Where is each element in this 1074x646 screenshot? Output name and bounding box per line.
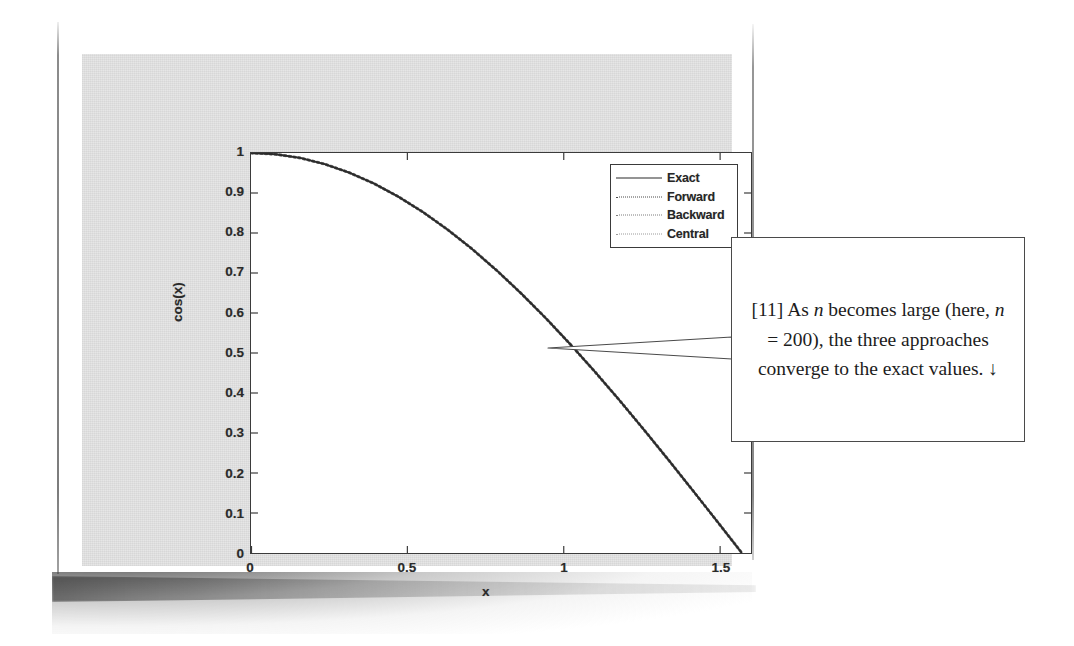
callout-italic-n-1: n [814,299,824,320]
x-axis-label: x [482,584,490,599]
y-tick-label: 0 [200,546,244,561]
matlab-figure: 1 0.9 0.8 0.7 0.6 0.5 0.4 0.3 0.2 0.1 0 … [82,54,732,566]
y-tick-label: 0.9 [200,184,244,199]
callout-text: [11] As n becomes large (here, n = 200),… [732,295,1024,384]
callout-leader-line [540,325,740,380]
y-tick-label: 0.7 [200,264,244,279]
callout-box: [11] As n becomes large (here, n = 200),… [731,237,1025,442]
legend-label: Forward [667,190,715,204]
legend-line-solid-icon [616,173,662,183]
legend-line-dotted-icon [616,229,662,239]
down-arrow-icon: ↓ [988,358,998,379]
legend-label: Backward [667,208,724,222]
y-tick-label: 0.6 [200,305,244,320]
callout-italic-n-2: n [995,299,1005,320]
legend-item-central: Central [616,225,732,243]
legend-item-backward: Backward [616,206,732,224]
legend-line-dotted-icon [616,210,662,220]
y-tick-label: 0.8 [200,224,244,239]
scanned-page: 1 0.9 0.8 0.7 0.6 0.5 0.4 0.3 0.2 0.1 0 … [0,0,1074,646]
y-tick-label: 1 [200,144,244,159]
callout-mid-2: = 200), the three approaches converge to… [758,329,989,380]
legend-line-dotted-icon [616,192,662,202]
y-tick-label: 0.5 [200,345,244,360]
page-gutter-shadow [52,572,752,634]
y-tick-label: 0.1 [200,506,244,521]
legend-item-exact: Exact [616,169,732,187]
plot-legend: Exact Forward Backward Central [610,164,738,248]
x-tick-label: 0 [228,560,272,575]
y-tick-label: 0.2 [200,466,244,481]
legend-label: Exact [667,171,699,185]
legend-item-forward: Forward [616,188,732,206]
legend-label: Central [667,227,709,241]
x-tick-label: 0.5 [385,560,429,575]
callout-mid-1: becomes large (here, [823,299,994,320]
y-tick-label: 0.4 [200,385,244,400]
callout-prefix: [11] As [752,299,814,320]
y-axis-label: cos(x) [170,282,185,322]
y-tick-label: 0.3 [200,425,244,440]
x-tick-label: 1 [542,560,586,575]
page-left-border [57,22,59,574]
x-tick-label: 1.5 [699,560,743,575]
